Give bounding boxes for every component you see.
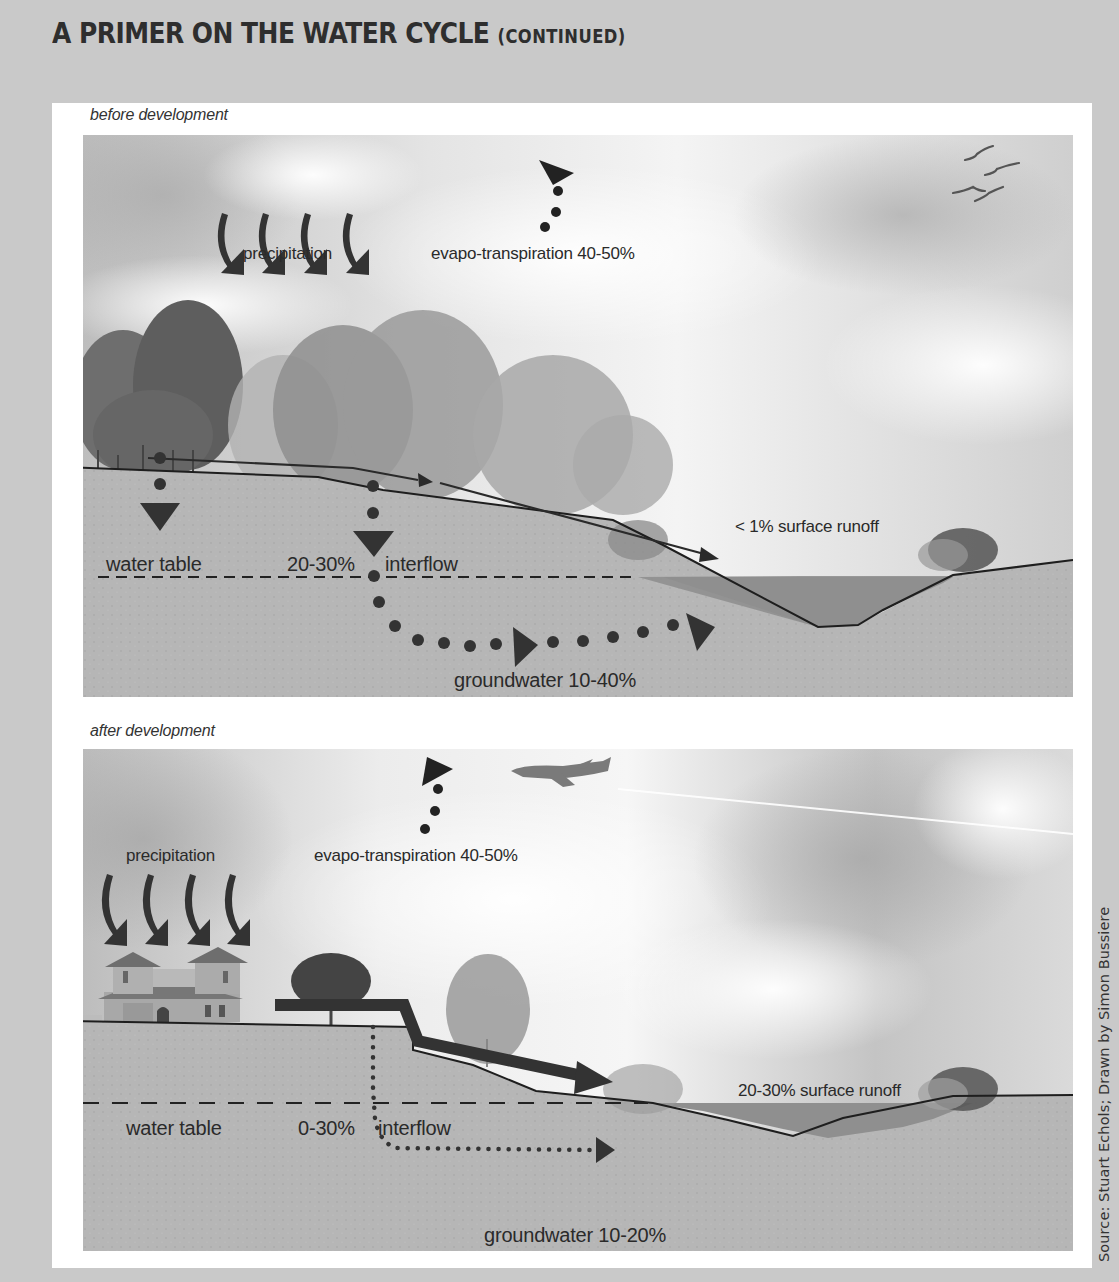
label-groundwater-before: groundwater 10-40% — [454, 669, 636, 692]
label-interflow-before: interflow — [385, 553, 458, 576]
label-water-table-after: water table — [126, 1117, 222, 1140]
label-interflow-after: interflow — [378, 1117, 451, 1140]
label-evapotranspiration-after: evapo-transpiration 40-50% — [314, 846, 518, 866]
label-interflow-pct-before: 20-30% — [287, 553, 355, 576]
page-title-suffix: (CONTINUED) — [497, 25, 625, 47]
page-title-main: A PRIMER ON THE WATER CYCLE — [52, 16, 489, 50]
label-evapotranspiration-before: evapo-transpiration 40-50% — [431, 244, 635, 264]
panel-before-development — [83, 135, 1073, 697]
label-precipitation-before: precipitation — [243, 244, 332, 264]
label-surface-runoff-before: < 1% surface runoff — [735, 517, 879, 537]
panel-label-before: before development — [90, 106, 228, 124]
label-water-table-before: water table — [106, 553, 202, 576]
page-title: A PRIMER ON THE WATER CYCLE (CONTINUED) — [52, 16, 626, 50]
label-surface-runoff-after: 20-30% surface runoff — [738, 1081, 901, 1101]
label-precipitation-after: precipitation — [126, 846, 215, 866]
label-groundwater-after: groundwater 10-20% — [484, 1224, 666, 1247]
panel-after-development — [83, 749, 1073, 1251]
after-scene — [83, 749, 1073, 1251]
source-credit: Source: Stuart Echols; Drawn by Simon Bu… — [1096, 907, 1112, 1262]
panel-label-after: after development — [90, 722, 215, 740]
label-interflow-pct-after: 0-30% — [298, 1117, 355, 1140]
before-scene — [83, 135, 1073, 697]
